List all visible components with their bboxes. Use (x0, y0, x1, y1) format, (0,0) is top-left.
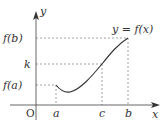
curve-label: y = f(x) (111, 23, 153, 36)
y-tick-label-fb: f(b) (2, 32, 23, 45)
guide-lines (36, 38, 128, 105)
y-tick-label-k: k (24, 58, 31, 71)
x-tick-label-c: c (99, 107, 105, 120)
x-axis-label: x (152, 108, 159, 121)
curve-y-equals-f-x (56, 38, 128, 92)
x-tick-label-b: b (125, 107, 132, 120)
y-axis-label: y (39, 5, 47, 18)
origin-label: O (26, 107, 35, 119)
function-graph: y x O a c b f(b) k f(a) y = f(x) (0, 0, 168, 124)
x-tick-label-a: a (53, 107, 60, 120)
y-tick-label-fa: f(a) (2, 79, 22, 92)
